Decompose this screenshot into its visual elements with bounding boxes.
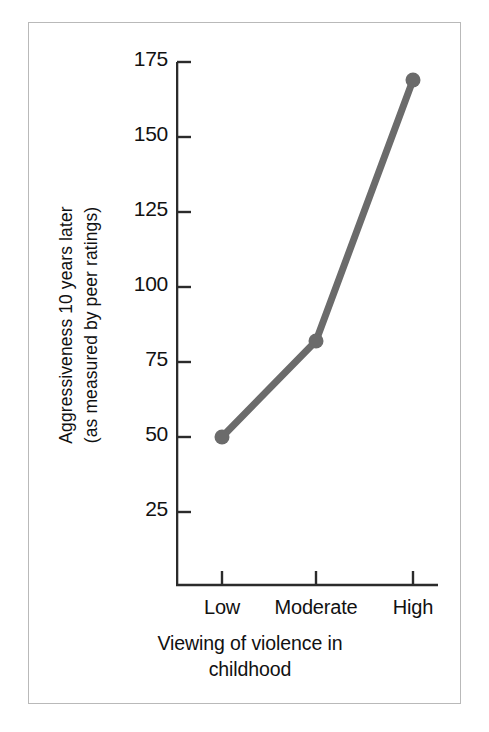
y-axis-tick-label: 100 [106, 272, 168, 296]
x-axis-tick-label: Moderate [275, 596, 358, 619]
y-axis-tick-label: 75 [106, 347, 168, 371]
y-axis-tick-label: 150 [106, 122, 168, 146]
plot-area [176, 55, 448, 590]
x-axis-tick-labels: LowModerateHigh [140, 596, 470, 624]
axis-lines [177, 62, 438, 585]
y-axis-ticks [177, 62, 191, 512]
y-axis-title-line-2: (as measured by peer ratings) [79, 206, 104, 443]
y-axis-title-line-1: Aggressiveness 10 years later [54, 206, 79, 443]
y-axis-tick-label: 175 [106, 47, 168, 71]
x-axis-title-line-2: childhood [60, 656, 440, 682]
x-axis-tick-label: Low [204, 596, 240, 619]
y-axis-title-text: Aggressiveness 10 years later (as measur… [54, 206, 104, 443]
y-axis-tick-label: 125 [106, 197, 168, 221]
figure-canvas: Aggressiveness 10 years later (as measur… [0, 0, 489, 732]
data-markers [215, 73, 421, 445]
data-line [222, 80, 413, 437]
y-axis-tick-label: 25 [106, 497, 168, 521]
x-axis-tick-label: High [393, 596, 433, 619]
x-axis-ticks [222, 571, 413, 585]
chart-svg [176, 55, 448, 590]
x-axis-title-line-1: Viewing of violence in [60, 630, 440, 656]
y-axis-tick-label: 50 [106, 422, 168, 446]
x-axis-title: Viewing of violence in childhood [60, 630, 440, 682]
y-axis-tick-labels: 255075100125150175 [104, 55, 168, 590]
